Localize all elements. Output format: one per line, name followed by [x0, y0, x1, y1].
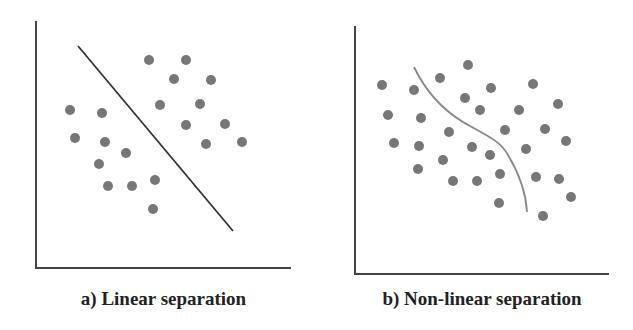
data-point	[237, 137, 247, 147]
data-point	[377, 80, 387, 90]
data-point	[148, 204, 158, 214]
data-point	[127, 181, 137, 191]
data-point	[521, 144, 531, 154]
data-point	[70, 133, 80, 143]
data-point	[169, 74, 179, 84]
data-point	[561, 136, 571, 146]
data-point	[438, 155, 448, 165]
data-point	[531, 172, 541, 182]
data-point	[389, 138, 399, 148]
data-point	[553, 99, 563, 109]
data-point	[528, 79, 538, 89]
data-point	[65, 105, 75, 115]
scatter-panels	[0, 0, 633, 330]
data-point	[416, 113, 426, 123]
data-point	[467, 142, 477, 152]
data-point	[566, 192, 576, 202]
nonlinear-separator-curve	[414, 67, 527, 212]
data-point	[486, 83, 496, 93]
axes-b	[355, 26, 609, 274]
data-point	[195, 99, 205, 109]
data-point	[94, 159, 104, 169]
data-point	[150, 175, 160, 185]
data-point	[409, 85, 419, 95]
panel-linear-separation	[36, 21, 291, 268]
data-point	[121, 148, 131, 158]
data-point	[554, 174, 564, 184]
data-point	[540, 124, 550, 134]
data-point	[103, 181, 113, 191]
data-point	[472, 176, 482, 186]
data-point	[448, 176, 458, 186]
data-point	[538, 211, 548, 221]
data-points-a	[65, 55, 247, 214]
panel-nonlinear-separation	[355, 26, 609, 274]
data-point	[460, 93, 470, 103]
data-point	[494, 198, 504, 208]
caption-nonlinear-separation: b) Non-linear separation	[355, 288, 609, 310]
data-point	[414, 141, 424, 151]
data-point	[514, 105, 524, 115]
data-point	[201, 139, 211, 149]
linear-separator-line	[78, 46, 233, 231]
data-points-b	[377, 60, 576, 221]
data-point	[444, 127, 454, 137]
data-point	[181, 120, 191, 130]
data-point	[383, 110, 393, 120]
data-point	[220, 119, 230, 129]
data-point	[495, 169, 505, 179]
data-point	[155, 100, 165, 110]
data-point	[485, 150, 495, 160]
data-point	[475, 105, 485, 115]
data-point	[463, 60, 473, 70]
data-point	[97, 108, 107, 118]
data-point	[435, 73, 445, 83]
axes-a	[36, 21, 291, 268]
data-point	[100, 137, 110, 147]
data-point	[413, 164, 423, 174]
data-point	[144, 55, 154, 65]
figure: a) Linear separation b) Non-linear separ…	[0, 0, 633, 330]
data-point	[206, 75, 216, 85]
data-point	[500, 125, 510, 135]
caption-linear-separation: a) Linear separation	[36, 288, 291, 310]
data-point	[181, 55, 191, 65]
